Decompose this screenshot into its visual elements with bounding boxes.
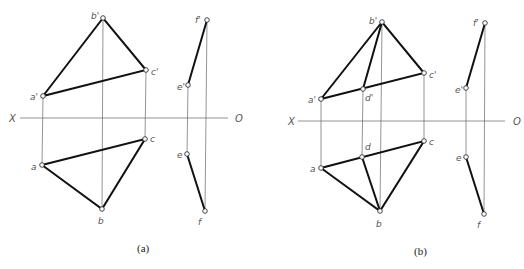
label-f-prime: f' [195, 15, 201, 25]
point-e [185, 152, 190, 157]
triangle-front-view [321, 22, 424, 99]
projection-diagram: X O a' b' c' a b c e' f' e [0, 0, 524, 269]
axis-label-o: O [235, 113, 243, 124]
projection-line-b [102, 18, 103, 209]
point-a-prime [319, 97, 324, 102]
axis-label-o: O [513, 116, 521, 127]
point-b [378, 209, 383, 214]
caption-a: (a) [137, 242, 150, 255]
point-f [482, 212, 487, 217]
label-f-prime: f' [473, 18, 479, 28]
projection-line-a [42, 96, 43, 165]
label-a-prime: a' [30, 92, 38, 102]
point-b-prime [380, 20, 385, 25]
label-b: b [376, 219, 382, 229]
triangle-front-view [43, 18, 146, 96]
point-c [143, 137, 148, 142]
point-e-prime [186, 83, 191, 88]
point-c [422, 139, 427, 144]
label-b-prime: b' [91, 11, 99, 21]
projection-line-c [145, 70, 146, 139]
point-e [464, 155, 469, 160]
figure-a: X O a' b' c' a b c e' f' e [8, 11, 243, 255]
caption-b: (b) [414, 245, 427, 258]
projection-line-f [484, 23, 485, 214]
label-a-prime: a' [308, 95, 316, 105]
label-a: a [31, 162, 37, 172]
axis-label-x: X [287, 116, 296, 127]
label-c: c [429, 137, 434, 147]
projection-line-d [362, 89, 363, 157]
point-f-prime [205, 18, 210, 23]
label-c-prime: c' [429, 70, 436, 80]
line-ef-top-view [187, 154, 205, 211]
point-d-prime [361, 87, 366, 92]
point-c-prime [144, 68, 149, 73]
projection-line-b [380, 22, 382, 211]
label-a: a [310, 164, 316, 174]
label-e: e [456, 153, 462, 163]
projection-line-e [187, 85, 188, 154]
axis-label-x: X [8, 113, 17, 124]
triangle-top-view [42, 139, 145, 209]
label-b-prime: b' [369, 16, 377, 26]
projection-line-f [205, 20, 207, 211]
label-f: f [477, 220, 482, 230]
line-bd-front-view [363, 22, 382, 89]
label-e: e [177, 150, 183, 160]
label-c: c [150, 134, 155, 144]
point-f [203, 209, 208, 214]
point-d [360, 155, 365, 160]
point-b [100, 207, 105, 212]
label-e-prime: e' [455, 85, 463, 95]
line-ef-front-view [466, 23, 485, 88]
triangle-top-view [321, 141, 424, 211]
point-a-prime [41, 94, 46, 99]
point-a [40, 163, 45, 168]
label-d-prime: d' [365, 93, 373, 103]
line-ef-front-view [188, 20, 207, 85]
point-f-prime [483, 21, 488, 26]
label-e-prime: e' [177, 82, 185, 92]
line-bd-top-view [362, 157, 380, 211]
point-b-prime [101, 16, 106, 21]
label-b: b [98, 216, 104, 226]
label-f: f [198, 217, 203, 227]
point-c-prime [422, 71, 427, 76]
point-a [319, 166, 324, 171]
label-d: d [365, 142, 371, 152]
figure-b: X O a' b' c' d' a [287, 16, 521, 258]
point-e-prime [464, 86, 469, 91]
line-ef-top-view [466, 157, 484, 214]
label-c-prime: c' [151, 67, 158, 77]
